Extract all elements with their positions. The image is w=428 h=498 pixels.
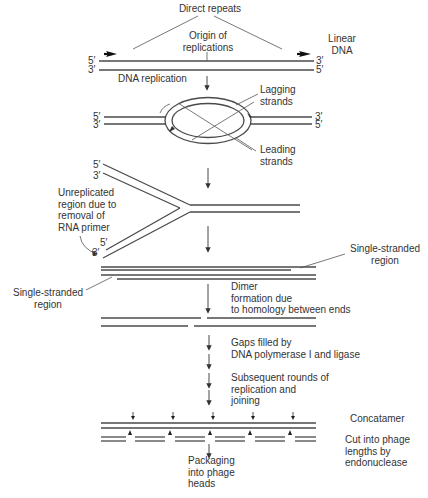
gaps-filled-label: Gaps filled by DNA polymerase I and liga… xyxy=(231,337,360,360)
concatamer xyxy=(101,412,316,428)
dimer xyxy=(101,318,316,326)
direct-repeat-arrow-left-icon xyxy=(104,51,117,57)
linear-dna-label: Linear DNA xyxy=(322,33,362,56)
lagging-strands-label: Lagging strands xyxy=(260,84,296,107)
five-prime-label: 5′ xyxy=(100,237,107,249)
three-prime-label: 3′ xyxy=(88,64,95,76)
unreplicated-region-label: Unreplicated region due to removal of RN… xyxy=(58,187,116,233)
five-prime-label: 5′ xyxy=(316,64,323,76)
dna-replication-label: DNA replication xyxy=(118,73,187,85)
five-prime-label: 5′ xyxy=(93,159,100,171)
origin-of-replications-label: Origin of replications xyxy=(178,30,238,53)
linear-dna-duplex xyxy=(99,52,314,70)
single-stranded-region-left-label: Single-stranded region xyxy=(12,287,84,310)
three-prime-label: 3′ xyxy=(93,119,100,131)
direct-repeats-label: Direct repeats xyxy=(170,3,250,15)
packaging-label: Packaging into phage heads xyxy=(188,455,235,490)
phage-length-fragments xyxy=(101,430,316,441)
phage-dna-replication-diagram: Direct repeats Origin of replications Li… xyxy=(0,0,428,498)
five-prime-label: 5′ xyxy=(315,119,322,131)
subsequent-rounds-label: Subsequent rounds of replication and joi… xyxy=(231,372,329,407)
three-prime-label: 3′ xyxy=(92,247,99,259)
cut-into-phage-lengths-label: Cut into phage lengths by endonuclease xyxy=(345,434,410,469)
dimer-formation-label: Dimer formation due to homology between … xyxy=(231,281,351,316)
three-prime-label: 3′ xyxy=(93,170,100,182)
leading-strands-label: Leading strands xyxy=(260,144,296,167)
concatamer-label: Concatamer xyxy=(350,413,404,425)
single-stranded-region-right-label: Single-stranded region xyxy=(345,243,425,266)
direct-repeat-arrow-right-icon xyxy=(297,51,311,57)
